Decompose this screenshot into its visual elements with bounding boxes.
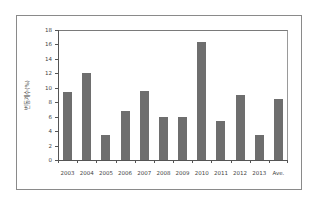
bar-2006	[121, 111, 130, 160]
x-tick-label: 2011	[211, 170, 231, 176]
x-tick-label: 2007	[134, 170, 154, 176]
x-tick-mark	[231, 160, 232, 163]
x-tick-mark	[77, 160, 78, 163]
x-tick-label: Ave.	[268, 170, 288, 176]
x-tick-label: 2010	[192, 170, 212, 176]
x-tick-mark	[269, 160, 270, 163]
x-tick-mark	[96, 160, 97, 163]
bar-2003	[63, 92, 72, 160]
bar-Ave	[274, 99, 283, 160]
x-tick-label: 2013	[249, 170, 269, 176]
y-tick-label: 0	[34, 157, 52, 163]
bar-2010	[197, 42, 206, 160]
x-tick-mark	[116, 160, 117, 163]
x-tick-mark	[173, 160, 174, 163]
y-tick-label: 2	[34, 143, 52, 149]
x-tick-mark	[58, 160, 59, 163]
x-tick-label: 2008	[153, 170, 173, 176]
x-tick-label: 2005	[96, 170, 116, 176]
x-tick-mark	[135, 160, 136, 163]
bar-2004	[82, 73, 91, 160]
x-tick-mark	[154, 160, 155, 163]
x-tick-mark	[192, 160, 193, 163]
x-tick-label: 2009	[173, 170, 193, 176]
x-tick-label: 2003	[58, 170, 78, 176]
bar-2008	[159, 117, 168, 160]
bar-2009	[178, 117, 187, 160]
x-tick-mark	[250, 160, 251, 163]
y-tick-label: 4	[34, 128, 52, 134]
y-tick-label: 8	[34, 99, 52, 105]
bar-2013	[255, 135, 264, 160]
y-tick-label: 18	[34, 27, 52, 33]
y-tick-label: 10	[34, 85, 52, 91]
bar-2012	[236, 95, 245, 160]
y-tick-label: 16	[34, 41, 52, 47]
y-tick-label: 14	[34, 56, 52, 62]
x-tick-label: 2012	[230, 170, 250, 176]
x-tick-mark	[211, 160, 212, 163]
x-tick-label: 2006	[115, 170, 135, 176]
x-tick-label: 2004	[77, 170, 97, 176]
plot-area	[58, 30, 288, 160]
y-tick-label: 12	[34, 70, 52, 76]
y-axis-line	[58, 30, 59, 161]
bar-2005	[101, 135, 110, 160]
bar-2011	[216, 121, 225, 160]
y-axis-title: 변동계수(%)	[23, 80, 31, 110]
x-tick-mark	[287, 160, 288, 163]
y-tick-label: 6	[34, 114, 52, 120]
bar-2007	[140, 91, 149, 160]
